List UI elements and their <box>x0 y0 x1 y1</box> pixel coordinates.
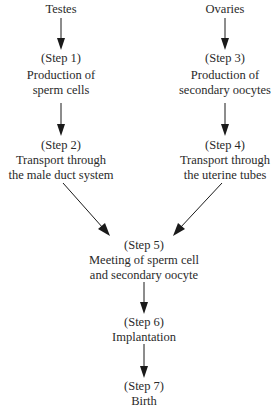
arrow-step4-to-step5 <box>173 183 222 236</box>
step-1-label: (Step 1) <box>41 51 81 65</box>
step-2-line-1: Transport through <box>16 153 106 167</box>
step-5-line-1: Meeting of sperm cell <box>89 253 199 267</box>
step-6-label: (Step 6) <box>124 315 164 329</box>
step-4-label: (Step 4) <box>205 138 245 152</box>
arrow-ovaries-to-step3 <box>221 18 229 50</box>
step-7-line-1: Birth <box>131 394 157 408</box>
arrow-step5-to-step6 <box>140 282 148 314</box>
step-3-line-1: Production of <box>191 68 259 82</box>
step-1-line-2: sperm cells <box>33 83 90 97</box>
step-1-line-1: Production of <box>27 68 95 82</box>
step-5-line-2: and secondary oocyte <box>90 268 198 282</box>
step-6-line-1: Implantation <box>112 330 176 344</box>
arrow-testes-to-step1 <box>57 18 65 50</box>
step-4-line-1: Transport through <box>180 153 270 167</box>
node-ovaries: Ovaries <box>206 2 245 16</box>
node-testes: Testes <box>45 2 76 16</box>
arrow-step3-to-step4 <box>221 103 229 136</box>
arrow-step2-to-step5 <box>63 183 110 236</box>
step-2-label: (Step 2) <box>41 138 81 152</box>
step-5-label: (Step 5) <box>124 238 164 252</box>
step-7-label: (Step 7) <box>124 379 164 393</box>
step-2-line-2: the male duct system <box>8 168 113 182</box>
arrow-step1-to-step2 <box>57 103 65 136</box>
step-3-line-2: secondary oocytes <box>179 83 271 97</box>
step-3-label: (Step 3) <box>205 51 245 65</box>
step-4-line-2: the uterine tubes <box>184 168 267 182</box>
arrow-step6-to-step7 <box>140 344 148 378</box>
